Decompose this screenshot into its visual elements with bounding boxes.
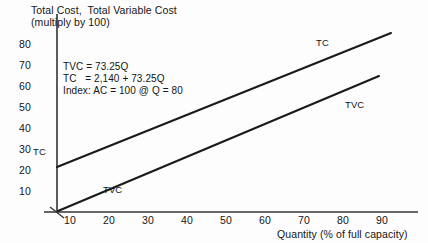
chart-subtitle: (multiply by 100) <box>31 16 110 29</box>
annotation-index: Index: AC = 100 @ Q = 80 <box>63 85 183 98</box>
x-tick-70: 70 <box>291 214 317 226</box>
x-tick-40: 40 <box>174 214 200 226</box>
y-tick-50: 50 <box>5 101 31 113</box>
chart-title: Total Cost, Total Variable Cost <box>31 4 177 17</box>
x-tick-60: 60 <box>252 214 278 226</box>
series-label-tc-left: TC <box>33 146 46 157</box>
series-label-tvc-left: TVC <box>103 184 122 195</box>
y-tick-10: 10 <box>5 185 31 197</box>
x-tick-30: 30 <box>135 214 161 226</box>
chart-canvas <box>0 0 428 243</box>
series-label-tvc-right: TVC <box>345 99 364 110</box>
cost-chart: Total Cost, Total Variable Cost (multipl… <box>0 0 428 243</box>
y-tick-70: 70 <box>5 59 31 71</box>
y-tick-40: 40 <box>5 122 31 134</box>
annotation-tc-equation: TC = 2,140 + 73.25Q <box>63 73 165 86</box>
y-tick-60: 60 <box>5 80 31 92</box>
x-tick-20: 20 <box>96 214 122 226</box>
x-tick-10: 10 <box>57 214 83 226</box>
series-label-tc-right: TC <box>316 37 329 48</box>
x-axis-label: Quantity (% of full capacity) <box>277 228 408 240</box>
y-tick-30: 30 <box>5 143 31 155</box>
total-cost-line <box>57 33 391 167</box>
y-tick-80: 80 <box>5 38 31 50</box>
y-tick-20: 20 <box>5 164 31 176</box>
x-tick-50: 50 <box>213 214 239 226</box>
x-tick-80: 80 <box>330 214 356 226</box>
annotation-tvc-equation: TVC = 73.25Q <box>63 61 128 74</box>
x-tick-90: 90 <box>369 214 395 226</box>
